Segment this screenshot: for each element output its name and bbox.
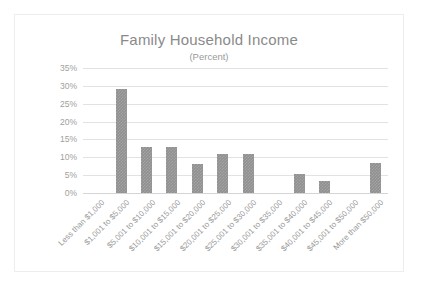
gridline	[83, 122, 388, 123]
gridline	[83, 139, 388, 140]
bar	[141, 147, 152, 193]
y-axis-tick-label: 0%	[65, 188, 77, 198]
y-axis-tick-label: 15%	[60, 134, 77, 144]
y-axis-tick-label: 30%	[60, 81, 77, 91]
y-axis-tick-label: 35%	[60, 63, 77, 73]
x-axis-tick-label: More than $50,000	[332, 198, 386, 252]
gridline	[83, 86, 388, 87]
bar	[243, 154, 254, 193]
bar	[217, 154, 228, 193]
plot-area: 35%30%25%20%15%10%5%0% Less than $1,000$…	[83, 68, 388, 193]
y-axis-tick-label: 20%	[60, 117, 77, 127]
gridline	[83, 175, 388, 176]
bar	[294, 174, 305, 193]
bar	[192, 164, 203, 193]
bar	[116, 89, 127, 193]
y-axis-tick-label: 5%	[65, 170, 77, 180]
gridline	[83, 104, 388, 105]
gridline	[83, 68, 388, 69]
chart-subtitle: (Percent)	[15, 51, 403, 62]
gridline	[83, 157, 388, 158]
bar	[166, 147, 177, 193]
y-axis-tick-label: 10%	[60, 152, 77, 162]
chart-figure: Family Household Income (Percent) 35%30%…	[14, 14, 404, 272]
x-axis-tick-label: $1,001 to $5,000	[83, 198, 132, 247]
bar	[370, 163, 381, 193]
gridline	[83, 193, 388, 194]
bar	[319, 181, 330, 193]
y-axis-tick-label: 25%	[60, 99, 77, 109]
chart-title: Family Household Income	[15, 31, 403, 48]
